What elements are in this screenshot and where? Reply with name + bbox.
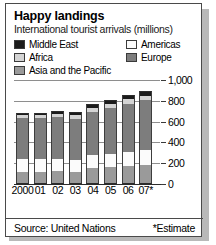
bar-segment [34,118,47,159]
bar-segment [69,160,82,172]
y-tick [161,142,166,143]
legend-label-asia-and-the-pacific: Asia and the Pacific [29,65,111,76]
bar-segment [69,172,82,184]
bar-01 [34,113,47,184]
chart-figure: Happy landings International tourist arr… [0,0,216,245]
legend-item-africa: Africa [14,52,53,63]
bar-segment [122,152,135,166]
legend-label-americas: Americas [141,39,180,50]
plot-area: 02004006008001,000 200001020304050607* [6,78,202,206]
legend-swatch-americas [126,40,137,49]
legend-swatch-middle-east [14,40,25,49]
legend-label-europe: Europe [141,52,171,63]
bar-segment [16,172,29,184]
bar-segment [122,104,135,152]
bar-segment [122,166,135,184]
bar-02 [51,111,64,184]
chart-legend: Middle East Africa Asia and the Pacific … [14,39,197,77]
bar-segment [16,159,29,172]
bar-segment [86,112,99,156]
bar-segment [86,155,99,168]
y-tick [161,163,166,164]
bar-06 [122,95,135,184]
x-axis-labels: 200001020304050607* [14,184,164,198]
bar-segment [69,119,82,161]
legend-swatch-asia-and-the-pacific [14,66,25,75]
legend-swatch-europe [126,53,137,62]
bar-segment [104,167,117,184]
bar-05 [104,100,117,184]
y-tick [161,122,166,123]
bar-segment [51,171,64,184]
legend-item-europe: Europe [126,52,171,63]
legend-label-africa: Africa [29,52,53,63]
y-tick-label: 600 [168,117,184,127]
bar-segment [34,172,47,184]
legend-item-americas: Americas [126,39,180,50]
bar-segment [16,118,29,159]
bar-07est [139,91,152,184]
x-tick-label: 07* [132,184,160,196]
bar-segment [51,159,64,171]
chart-card: Happy landings International tourist arr… [5,3,202,237]
y-tick [161,101,166,102]
bar-segment [139,100,152,150]
bar-04 [86,104,99,184]
chart-footer: Source: United Nations *Estimate [6,218,203,237]
legend-item-asia-and-the-pacific: Asia and the Pacific [14,65,111,76]
bar-03 [69,112,82,184]
legend-swatch-africa [14,53,25,62]
bar-segment [51,117,64,158]
y-tick-label: 0 [168,179,173,189]
y-tick-label: 800 [168,96,184,106]
legend-label-middle-east: Middle East [29,39,78,50]
source-note: Source: United Nations [14,222,115,234]
y-tick-label: 1,000 [168,75,192,85]
y-tick-label: 400 [168,137,184,147]
chart-title: Happy landings [14,9,104,23]
estimate-note: *Estimate [153,222,195,234]
y-tick-label: 200 [168,158,184,168]
bar-2000 [16,113,29,185]
bar-segment [139,150,152,165]
bar-segment [34,159,47,172]
bar-segment [104,108,117,154]
y-tick [161,80,166,81]
bar-segment [104,154,117,168]
bar-segment [139,165,152,184]
bar-segment [86,168,99,184]
legend-item-middle-east: Middle East [14,39,78,50]
chart-subtitle: International tourist arrivals (millions… [14,23,173,35]
